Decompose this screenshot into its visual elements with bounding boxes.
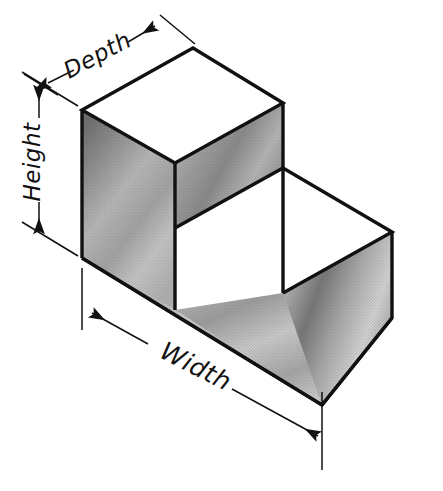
drawing-canvas: Depth Height Width (0, 0, 443, 491)
height-label: Height (19, 122, 45, 202)
height-ext-bottom (22, 222, 78, 256)
block-solid (82, 48, 392, 405)
depth-ext-right (160, 15, 195, 44)
depth-label: Depth (59, 26, 135, 83)
depth-dim-line-2 (128, 26, 155, 42)
width-dim-line-left (92, 313, 148, 344)
isometric-block-figure: Depth Height Width (0, 0, 443, 491)
